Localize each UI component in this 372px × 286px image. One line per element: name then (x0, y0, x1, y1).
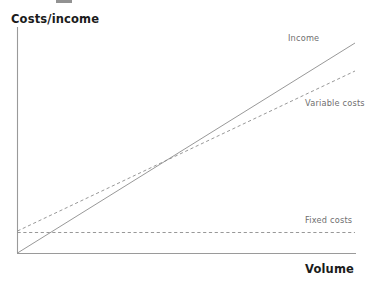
x-axis-title: Volume (305, 262, 354, 276)
fixed-costs-series-label: Fixed costs (305, 215, 352, 225)
y-axis-title: Costs/income (11, 12, 99, 26)
break-even-chart: Costs/income Volume Income Variable cost… (0, 0, 372, 286)
variable-costs-series-label: Variable costs (305, 98, 365, 108)
variable-costs-line (18, 71, 356, 231)
income-series-label: Income (288, 33, 319, 43)
